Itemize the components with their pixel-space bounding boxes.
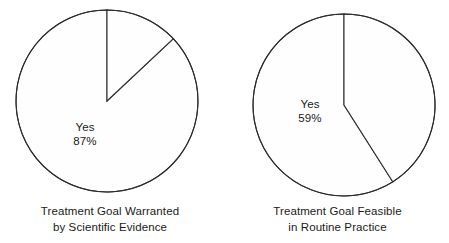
slice-label-value: 59%: [260, 111, 360, 125]
slice-label-name: Yes: [75, 121, 94, 133]
slice-label-value: 87%: [35, 134, 135, 148]
chart-treatment-goal-feasible: Yes 59% Treatment Goal Feasible in Routi…: [225, 0, 449, 243]
chart-treatment-goal-warranted: Yes 87% Treatment Goal Warranted by Scie…: [0, 0, 225, 243]
caption-line-1: Treatment Goal Warranted: [41, 205, 179, 217]
chart-caption: Treatment Goal Warranted by Scientific E…: [10, 203, 210, 235]
pie-slice-label-yes: Yes 59%: [260, 97, 360, 125]
chart-caption: Treatment Goal Feasible in Routine Pract…: [245, 203, 430, 235]
caption-line-2: by Scientific Evidence: [10, 219, 210, 235]
slice-label-name: Yes: [300, 98, 319, 110]
caption-line-1: Treatment Goal Feasible: [273, 205, 401, 217]
pie-slice-label-yes: Yes 87%: [35, 120, 135, 148]
pie-chart-figure: Yes 87% Treatment Goal Warranted by Scie…: [0, 0, 449, 243]
caption-line-2: in Routine Practice: [245, 219, 430, 235]
pie-left-svg: [0, 0, 225, 200]
